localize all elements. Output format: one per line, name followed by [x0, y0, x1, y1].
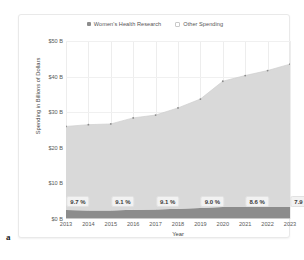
percent-annotation-2021: 8.6 %: [246, 196, 269, 207]
legend-swatch-filled-square-icon: [87, 22, 91, 26]
data-point-marker[interactable]: [155, 114, 157, 116]
x-axis-title: Year: [66, 231, 290, 237]
percent-annotation-2015: 9.1 %: [111, 196, 134, 207]
data-point-marker[interactable]: [177, 107, 179, 109]
x-tick-label: 2014: [82, 221, 94, 227]
chart-legend: Women's Health Research Other Spending: [19, 21, 291, 27]
figure-letter-label: a: [6, 232, 11, 242]
x-tick-label: 2013: [60, 221, 72, 227]
percent-annotation-2013: 9.7 %: [66, 196, 89, 207]
y-tick-label: $30 B: [48, 109, 63, 115]
legend-label-other-spending: Other Spending: [183, 21, 223, 27]
legend-item-womens-health-research[interactable]: Women's Health Research: [87, 21, 161, 27]
legend-label-womens-health-research: Women's Health Research: [94, 21, 161, 27]
x-tick-label: 2023: [284, 221, 296, 227]
data-point-marker[interactable]: [88, 124, 90, 126]
x-axis-ticks: 2013201420152016201720182019202020212022…: [66, 221, 290, 231]
y-tick-label: $40 B: [48, 74, 63, 80]
x-tick-label: 2017: [149, 221, 161, 227]
x-tick-label: 2020: [217, 221, 229, 227]
data-point-marker[interactable]: [200, 98, 202, 100]
y-axis-title: Spending in Billions of Dollars: [35, 41, 41, 151]
x-tick-label: 2019: [194, 221, 206, 227]
data-point-marker[interactable]: [132, 117, 134, 119]
x-tick-label: 2021: [239, 221, 251, 227]
gridline-x-2023: [290, 41, 291, 219]
y-tick-label: $20 B: [48, 145, 63, 151]
data-point-marker[interactable]: [222, 80, 224, 82]
legend-item-other-spending[interactable]: Other Spending: [175, 21, 223, 27]
x-tick-label: 2015: [105, 221, 117, 227]
percent-annotation-2017: 9.1 %: [156, 196, 179, 207]
data-point-marker[interactable]: [267, 70, 269, 72]
percent-annotation-2019: 9.0 %: [201, 196, 224, 207]
data-point-marker[interactable]: [110, 123, 112, 125]
plot-inner: [66, 41, 290, 219]
figure-container: Women's Health Research Other Spending $…: [0, 0, 304, 260]
data-point-marker[interactable]: [244, 75, 246, 77]
y-tick-label: $50 B: [48, 38, 63, 44]
y-tick-label: $10 B: [48, 180, 63, 186]
percent-annotation-2023: 7.9 %: [290, 196, 304, 207]
x-axis-line: [66, 218, 290, 219]
x-tick-label: 2016: [127, 221, 139, 227]
plot-area: [66, 41, 290, 219]
legend-swatch-open-square-icon: [175, 22, 180, 27]
area-series-other-spending: [66, 64, 290, 210]
chart-card: Women's Health Research Other Spending $…: [18, 14, 290, 238]
stacked-area-series: [66, 41, 290, 219]
y-axis-ticks: $0 B$10 B$20 B$30 B$40 B$50 B: [19, 41, 63, 219]
x-tick-label: 2022: [261, 221, 273, 227]
x-tick-label: 2018: [172, 221, 184, 227]
